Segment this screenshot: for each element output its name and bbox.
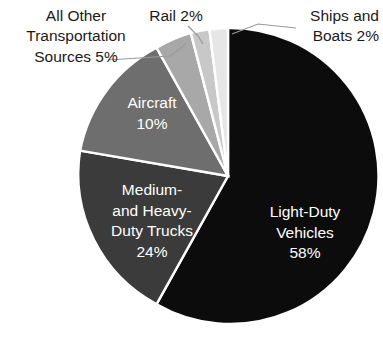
callout-label-all-other-transportation-sources: All Other Transportation Sources 5% — [6, 6, 146, 67]
pie-slices — [78, 28, 378, 324]
slice-label-light-duty-vehicles: Light-Duty Vehicles 58% — [247, 202, 363, 264]
callout-label-ships-and-boats: Ships and Boats 2% — [280, 6, 379, 47]
callout-label-rail: Rail 2% — [136, 6, 216, 26]
slice-label-aircraft: Aircraft 10% — [104, 93, 200, 134]
pie-chart-figure: All Other Transportation Sources 5% Rail… — [0, 0, 383, 338]
slice-label-medium-heavy-duty-trucks: Medium- and Heavy- Duty Trucks 24% — [92, 180, 212, 262]
